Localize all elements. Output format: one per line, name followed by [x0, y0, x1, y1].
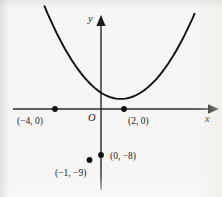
point-y-intercept [98, 152, 104, 158]
label-x-intercept-right: (2, 0) [128, 117, 149, 127]
y-axis-arrowhead-icon [96, 15, 105, 26]
label-y-intercept: (0, −8) [110, 152, 136, 162]
parabola-figure: (−4, 0) (2, 0) (−1, −9) (0, −8) y x O [0, 0, 222, 197]
label-x-intercept-left: (−4, 0) [17, 117, 43, 127]
parabola-curve [45, 6, 195, 99]
coordinate-plane-svg [0, 0, 222, 197]
label-y-axis: y [88, 14, 93, 25]
label-origin: O [88, 113, 96, 124]
point-vertex [87, 157, 93, 163]
point-x-intercept-left [52, 106, 58, 112]
label-x-axis: x [205, 114, 210, 125]
label-vertex: (−1, −9) [55, 169, 86, 179]
point-x-intercept-right [121, 106, 127, 112]
